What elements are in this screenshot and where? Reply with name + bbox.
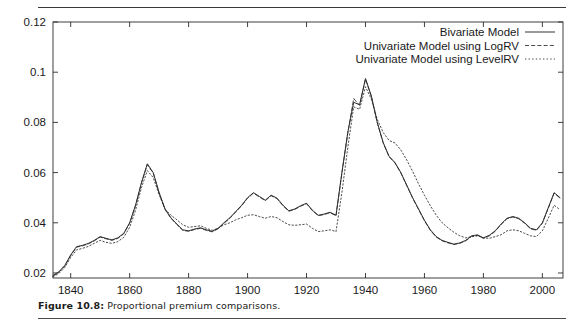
series-line-2 [53,87,560,277]
x-tick-label: 1900 [235,284,261,296]
proportional-premium-chart: 0.020.040.060.080.10.1218401860188019001… [0,12,572,297]
y-tick-label: 0.02 [24,267,46,279]
series-line-0 [53,78,560,275]
legend-label-1: Univariate Model using LogRV [364,40,519,52]
y-tick-label: 0.08 [24,116,46,128]
legend-label-0: Bivariate Model [440,26,519,38]
y-tick-label: 0.04 [24,217,47,229]
caption-body: Proportional premium comparisons. [107,300,280,311]
x-tick-label: 1980 [471,284,497,296]
figure-page: 0.020.040.060.080.10.1218401860188019001… [0,0,572,331]
y-tick-label: 0.1 [30,66,46,78]
x-tick-label: 1840 [58,284,84,296]
x-tick-label: 1880 [176,284,202,296]
x-tick-label: 1940 [353,284,379,296]
chart-figure: 0.020.040.060.080.10.1218401860188019001… [0,12,572,297]
series-line-1 [53,79,560,276]
caption-rule [38,318,566,319]
x-tick-label: 1860 [117,284,143,296]
figure-top-rule [38,7,566,8]
y-tick-label: 0.06 [24,167,46,179]
x-tick-label: 1960 [412,284,438,296]
x-tick-label: 1920 [294,284,320,296]
y-tick-label: 0.12 [24,16,46,28]
legend-label-2: Univariate Model using LevelRV [356,53,520,65]
x-tick-label: 2000 [530,284,556,296]
caption-label: Figure 10.8: [38,300,104,311]
figure-caption: Figure 10.8: Proportional premium compar… [38,300,566,312]
